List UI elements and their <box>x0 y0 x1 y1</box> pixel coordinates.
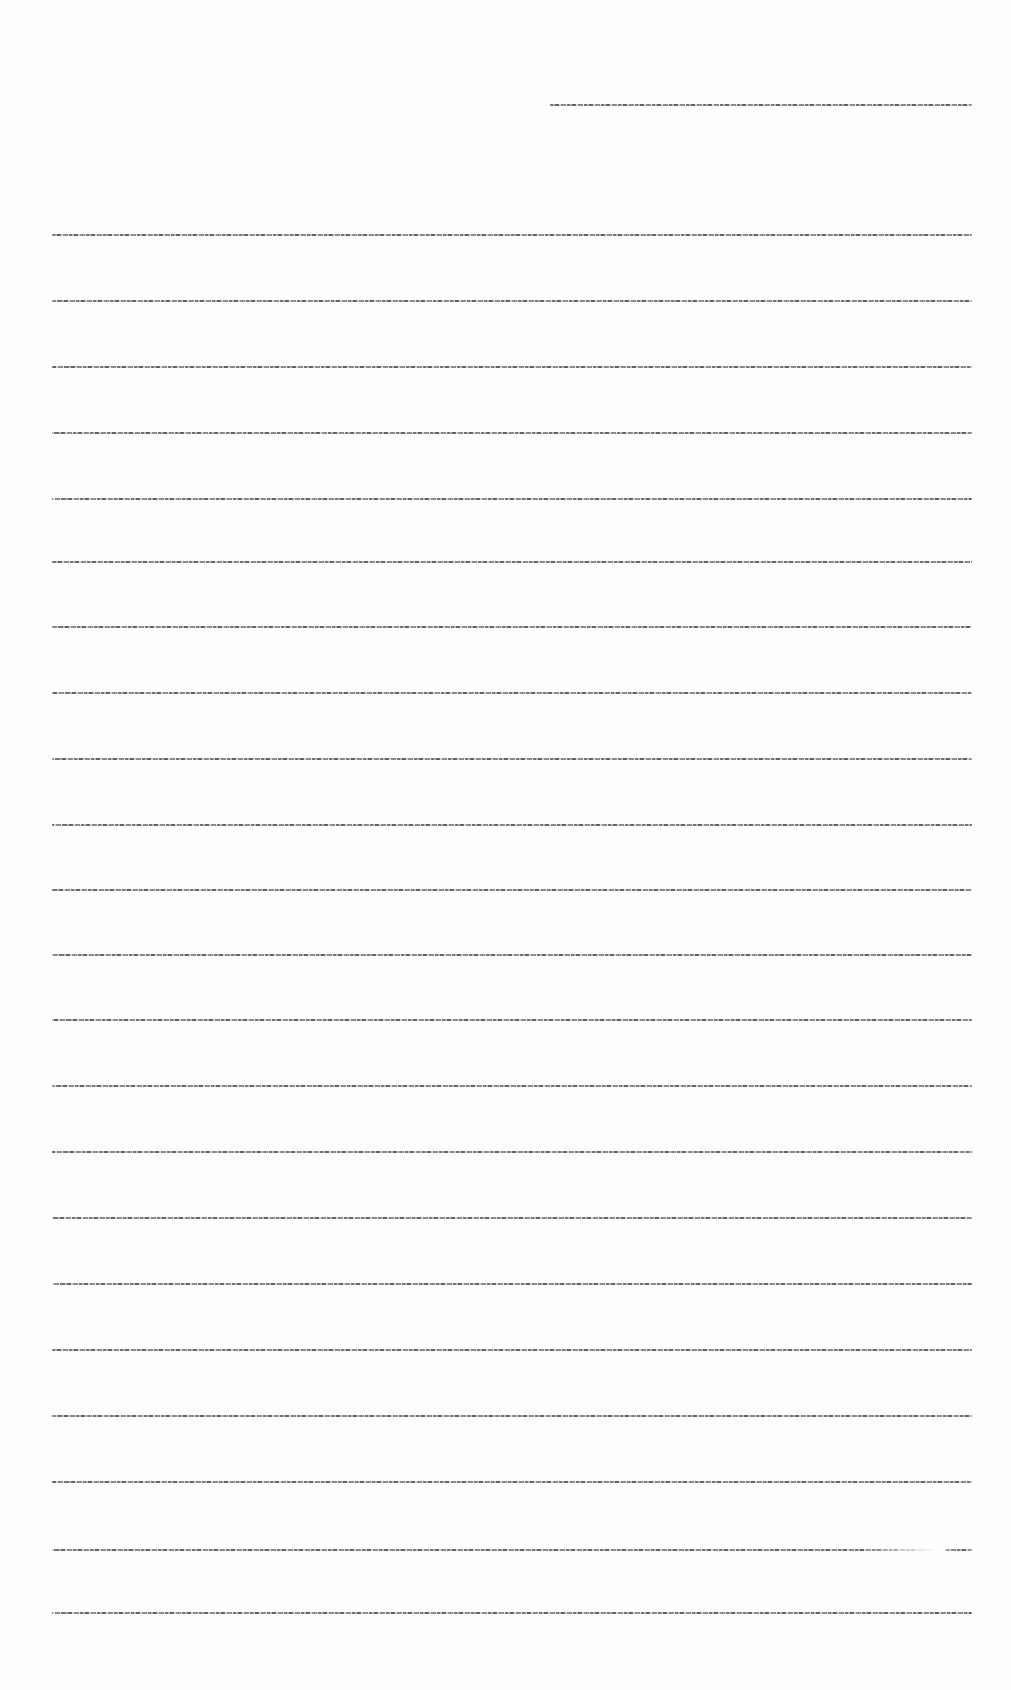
text-line <box>52 1085 972 1087</box>
text-line <box>52 889 972 891</box>
text-line <box>52 366 972 368</box>
text-line <box>52 1481 972 1483</box>
text-line <box>52 626 972 628</box>
text-line <box>52 1151 972 1153</box>
text-line <box>52 758 972 760</box>
document-page <box>0 0 1011 1690</box>
text-line <box>52 954 972 956</box>
text-line <box>52 1549 972 1551</box>
text-line <box>52 300 972 302</box>
text-line <box>52 824 972 826</box>
text-line <box>52 234 972 236</box>
text-line <box>52 692 972 694</box>
text-line <box>52 1415 972 1417</box>
text-line <box>52 1349 972 1351</box>
text-line <box>52 498 972 500</box>
text-line <box>52 1612 972 1614</box>
text-line <box>52 1283 972 1285</box>
text-line <box>52 432 972 434</box>
text-line <box>52 561 972 563</box>
text-line <box>52 1217 972 1219</box>
header-rule-line <box>550 104 972 106</box>
text-line <box>52 1019 972 1021</box>
